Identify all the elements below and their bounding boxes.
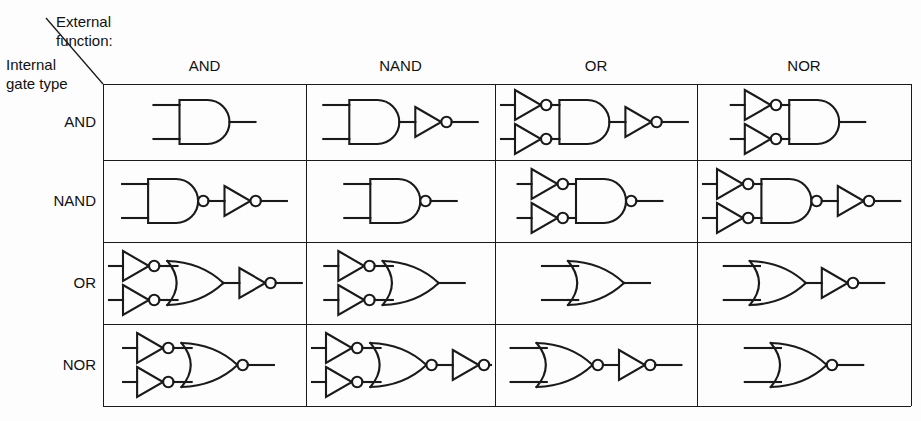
gate-diagram-nor-nand bbox=[306, 324, 495, 406]
gate-cell-nor-nor bbox=[697, 324, 911, 406]
gate-cell-nand-and bbox=[103, 160, 306, 242]
gate-cell-or-nor bbox=[697, 242, 911, 324]
logic-gate-equivalence-figure: External function: Internal gate type AN… bbox=[0, 0, 921, 421]
row-header-nor: NOR bbox=[0, 356, 96, 374]
column-header-and: AND bbox=[103, 56, 306, 76]
gate-diagram-and-and bbox=[103, 84, 306, 160]
gate-cell-and-and bbox=[103, 84, 306, 160]
column-header-nor: NOR bbox=[697, 56, 911, 76]
gate-diagram-nor-nor bbox=[697, 324, 911, 406]
gate-cell-or-or bbox=[495, 242, 697, 324]
gate-diagram-or-nand bbox=[306, 242, 495, 324]
gate-diagram-or-nor bbox=[697, 242, 911, 324]
column-header-or: OR bbox=[495, 56, 697, 76]
gate-diagram-nand-or bbox=[495, 160, 697, 242]
gate-diagram-nand-and bbox=[103, 160, 306, 242]
column-header-nand: NAND bbox=[306, 56, 495, 76]
gate-cell-and-nor bbox=[697, 84, 911, 160]
gate-cell-and-nand bbox=[306, 84, 495, 160]
gate-diagram-and-nand bbox=[306, 84, 495, 160]
gate-cell-nand-or bbox=[495, 160, 697, 242]
internal-gate-type-label: Internal gate type bbox=[6, 55, 68, 93]
gate-cell-nor-nand bbox=[306, 324, 495, 406]
row-header-or: OR bbox=[0, 274, 96, 292]
gate-cell-nor-and bbox=[103, 324, 306, 406]
gate-matrix-grid bbox=[103, 84, 911, 406]
row-header-nand: NAND bbox=[0, 192, 96, 210]
gate-diagram-nand-nand bbox=[306, 160, 495, 242]
corner-header: External function: Internal gate type bbox=[0, 0, 200, 90]
row-header-and: AND bbox=[0, 113, 96, 131]
gate-diagram-or-or bbox=[495, 242, 697, 324]
gate-cell-and-or bbox=[495, 84, 697, 160]
gate-cell-or-nand bbox=[306, 242, 495, 324]
grid-vertical-rule bbox=[911, 84, 912, 406]
gate-cell-nand-nor bbox=[697, 160, 911, 242]
gate-cell-nand-nand bbox=[306, 160, 495, 242]
gate-diagram-nand-nor bbox=[697, 160, 911, 242]
gate-diagram-or-and bbox=[103, 242, 306, 324]
gate-diagram-nor-or bbox=[495, 324, 697, 406]
external-function-label: External function: bbox=[56, 12, 113, 50]
grid-horizontal-rule bbox=[103, 406, 911, 407]
gate-diagram-and-or bbox=[495, 84, 697, 160]
gate-diagram-nor-and bbox=[103, 324, 306, 406]
gate-cell-nor-or bbox=[495, 324, 697, 406]
gate-diagram-and-nor bbox=[697, 84, 911, 160]
gate-cell-or-and bbox=[103, 242, 306, 324]
